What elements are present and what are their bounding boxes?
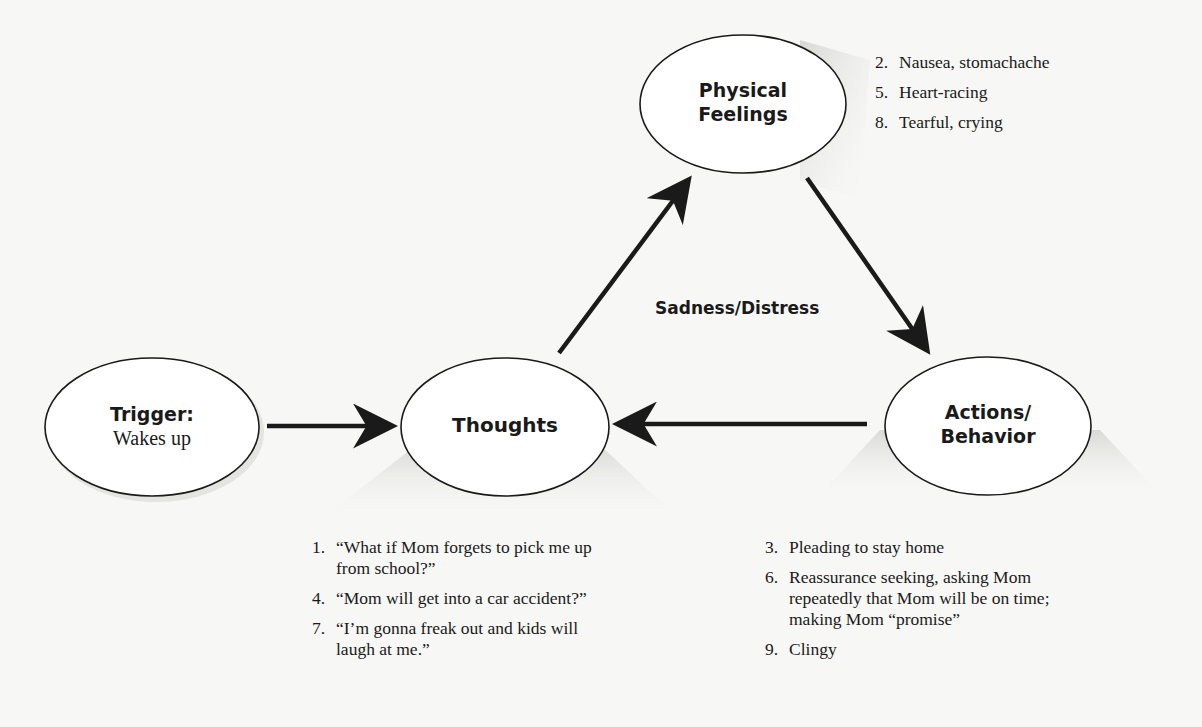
node-thoughts-label: Thoughts (415, 413, 595, 437)
list-item: 1.“What if Mom forgets to pick me up fro… (312, 537, 612, 579)
arrow-physical-to-actions (807, 178, 920, 340)
physical-title-line1: Physical (653, 78, 833, 102)
diagram-canvas: Trigger: Wakes up Thoughts Physical Feel… (0, 0, 1202, 727)
physical-feelings-list: 2.Nausea, stomachache 5.Heart-racing 8.T… (875, 52, 1175, 142)
list-item: 7.“I’m gonna freak out and kids will lau… (312, 618, 612, 660)
list-item: 3.Pleading to stay home (765, 537, 1085, 558)
actions-list: 3.Pleading to stay home 6.Reassurance se… (765, 537, 1085, 669)
actions-title-line2: Behavior (898, 424, 1078, 448)
center-emotion-label: Sadness/Distress (655, 298, 819, 318)
list-item: 6.Reassurance seeking, asking Mom repeat… (765, 567, 1085, 630)
list-item: 2.Nausea, stomachache (875, 52, 1175, 73)
list-item: 4.“Mom will get into a car accident?” (312, 588, 612, 609)
trigger-subtitle: Wakes up (62, 426, 242, 450)
physical-title-line2: Feelings (653, 102, 833, 126)
thoughts-list: 1.“What if Mom forgets to pick me up fro… (312, 537, 612, 669)
trigger-title: Trigger: (110, 403, 194, 425)
list-item: 9.Clingy (765, 639, 1085, 660)
actions-title-line1: Actions/ (898, 400, 1078, 424)
arrow-thoughts-to-physical (559, 190, 681, 353)
node-physical-label: Physical Feelings (653, 78, 833, 126)
node-actions-label: Actions/ Behavior (898, 400, 1078, 448)
list-item: 5.Heart-racing (875, 82, 1175, 103)
list-item: 8.Tearful, crying (875, 112, 1175, 133)
thoughts-title: Thoughts (452, 413, 558, 437)
node-trigger-label: Trigger: Wakes up (62, 402, 242, 450)
